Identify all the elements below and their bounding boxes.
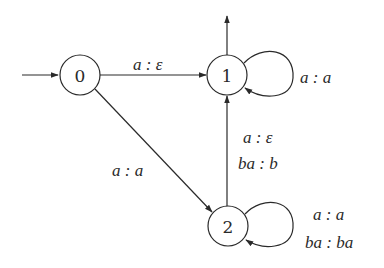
transducer-diagram: a : ε a : a a : a a : ε ba : b a : a ba … xyxy=(0,0,384,268)
state-2: 2 xyxy=(208,206,248,246)
edge-2-to-1: a : ε ba : b xyxy=(227,96,278,207)
edge-0-to-1: a : ε xyxy=(100,55,206,76)
edge-2-loop-label-1: a : a xyxy=(313,205,344,224)
state-1: 1 xyxy=(207,55,247,95)
state-0-label: 0 xyxy=(75,66,86,86)
edge-2-1-label-2: ba : b xyxy=(238,154,278,173)
state-1-label: 1 xyxy=(222,66,233,86)
edge-0-to-2: a : a xyxy=(95,89,212,212)
edge-2-1-label-1: a : ε xyxy=(243,128,273,147)
edge-1-loop: a : a xyxy=(244,51,331,96)
edge-2-loop: a : a ba : ba xyxy=(245,202,353,251)
edge-1-loop-label: a : a xyxy=(300,68,331,87)
state-2-label: 2 xyxy=(223,217,234,237)
state-0: 0 xyxy=(60,55,100,95)
edge-0-1-label: a : ε xyxy=(133,55,163,74)
edge-2-loop-label-2: ba : ba xyxy=(305,233,353,252)
edge-0-2-label: a : a xyxy=(112,161,143,180)
